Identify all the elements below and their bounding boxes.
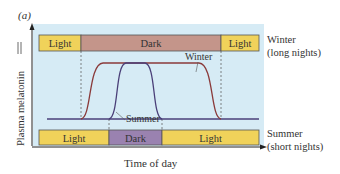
summer-dark-label: Dark: [125, 133, 147, 144]
summer-caption-line2: (short nights): [267, 141, 324, 153]
winter-dark-label: Dark: [141, 38, 163, 49]
summer-light-dark-bar: Light Dark Light: [39, 130, 259, 145]
winter-caption-line2: (long nights): [267, 47, 321, 59]
winter-light-label-1: Light: [49, 38, 72, 49]
y-axis-label: Plasma melatonin: [15, 70, 26, 146]
winter-curve-label: Winter: [185, 51, 213, 62]
summer-light-label-2: Light: [199, 133, 222, 144]
winter-light-dark-bar: Light Dark Light: [39, 35, 259, 51]
winter-light-label-2: Light: [229, 38, 252, 49]
summer-light-label-1: Light: [63, 133, 86, 144]
melatonin-diagram: (a) Plasma melatonin Time of day Light D…: [0, 0, 340, 174]
summer-caption-line1: Summer: [267, 128, 303, 139]
winter-caption-line1: Winter: [267, 34, 296, 45]
summer-curve-label: Summer: [126, 113, 161, 124]
panel-label: (a): [18, 9, 31, 22]
x-axis-label: Time of day: [124, 157, 178, 169]
